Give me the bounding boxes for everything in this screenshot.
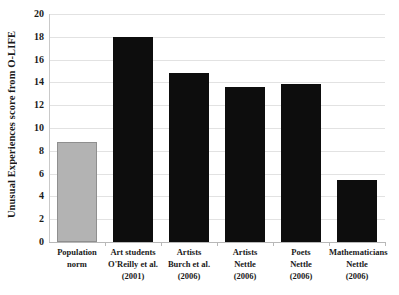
- y-axis-title-text: Unusual Experiences score from O-LIFE: [6, 31, 17, 218]
- category-label-line: Population: [49, 246, 105, 258]
- x-axis-category-label: ArtistsBurch et al.(2006): [161, 246, 217, 282]
- bar: [225, 87, 264, 242]
- y-tick-label: 12: [34, 100, 44, 110]
- y-tick-label: 0: [39, 237, 44, 247]
- x-axis-category-label: Populationnorm: [49, 246, 105, 270]
- category-label-line: Nettle: [329, 258, 385, 270]
- category-label-line: Nettle: [273, 258, 329, 270]
- category-label-line: Mathematicians: [329, 246, 385, 258]
- y-tick-label: 2: [39, 214, 44, 224]
- x-axis-tick: [161, 242, 162, 246]
- y-tick-label: 6: [39, 169, 44, 179]
- y-tick-label: 10: [34, 123, 44, 133]
- bar: [337, 180, 376, 242]
- category-label-line: norm: [49, 258, 105, 270]
- y-tick-label: 18: [34, 32, 44, 42]
- bar: [169, 73, 208, 242]
- category-label-line: (2001): [105, 270, 161, 282]
- x-axis-category-label: MathematiciansNettle(2006): [329, 246, 385, 282]
- category-label-line: Burch et al.: [161, 258, 217, 270]
- x-axis-tick: [273, 242, 274, 246]
- bar-chart: Unusual Experiences score from O-LIFE 02…: [0, 0, 399, 295]
- x-axis-category-label: ArtistsNettle(2006): [217, 246, 273, 282]
- y-tick-label: 20: [34, 9, 44, 19]
- x-axis-tick: [329, 242, 330, 246]
- category-label-line: Artists: [161, 246, 217, 258]
- category-label-line: O'Reilly et al.: [105, 258, 161, 270]
- x-axis-category-label: PoetsNettle(2006): [273, 246, 329, 282]
- bars-layer: [49, 14, 385, 242]
- category-label-line: (2006): [161, 270, 217, 282]
- x-axis-tick: [385, 242, 386, 246]
- category-label-line: (2006): [273, 270, 329, 282]
- bar: [57, 142, 96, 242]
- bar: [113, 37, 152, 242]
- y-tick-label: 4: [39, 191, 44, 201]
- category-label-line: Art students: [105, 246, 161, 258]
- category-label-line: Nettle: [217, 258, 273, 270]
- y-axis-title: Unusual Experiences score from O-LIFE: [0, 0, 22, 250]
- x-axis-category-label: Art studentsO'Reilly et al.(2001): [105, 246, 161, 282]
- y-tick-label: 8: [39, 146, 44, 156]
- x-axis-tick: [217, 242, 218, 246]
- category-label-line: Artists: [217, 246, 273, 258]
- y-axis-tick-labels: 02468101214161820: [22, 0, 47, 295]
- x-axis-tick: [105, 242, 106, 246]
- category-label-line: (2006): [329, 270, 385, 282]
- bar: [281, 84, 320, 242]
- x-axis-category-labels: PopulationnormArt studentsO'Reilly et al…: [49, 246, 385, 295]
- y-tick-label: 14: [34, 77, 44, 87]
- category-label-line: Poets: [273, 246, 329, 258]
- category-label-line: (2006): [217, 270, 273, 282]
- y-tick-label: 16: [34, 55, 44, 65]
